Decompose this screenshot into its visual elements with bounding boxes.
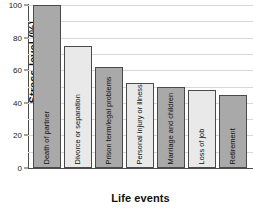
y-axis-ticks: 020406080100 [0, 0, 28, 175]
bar-category-label: Prison term/legal problems [105, 76, 112, 164]
bar[interactable]: Prison term/legal problems [95, 67, 123, 168]
bar[interactable]: Retirement [219, 95, 247, 168]
x-axis-line [28, 168, 253, 169]
bar-category-label: Retirement [230, 128, 237, 164]
y-tick-label: 60 [13, 66, 22, 75]
x-axis-title: Life events [28, 192, 253, 204]
y-tick-label: 20 [13, 131, 22, 140]
bar-category-label: Marriage and children [167, 93, 174, 164]
bar[interactable]: Marriage and children [157, 87, 185, 169]
bar[interactable]: Divorce or separation [64, 46, 92, 168]
y-tick-label: 80 [13, 33, 22, 42]
y-tick-label: 0 [18, 164, 22, 173]
bar-category-label: Divorce or separation [74, 94, 81, 164]
y-tick-label: 40 [13, 98, 22, 107]
stress-level-bar-chart: Stress level (%) 020406080100 Death of p… [0, 0, 253, 210]
bar-series: Death of partnerDivorce or separationPri… [31, 5, 249, 168]
bar[interactable]: Death of partner [33, 5, 61, 168]
bar[interactable]: Personal injury or illness [126, 83, 154, 168]
bar[interactable]: Loss of job [188, 90, 216, 168]
bar-category-label: Death of partner [43, 111, 50, 164]
bar-category-label: Personal injury or illness [136, 84, 143, 164]
plot-area: Death of partnerDivorce or separationPri… [28, 5, 253, 168]
y-tick-label: 100 [9, 1, 22, 10]
bar-category-label: Loss of job [199, 128, 206, 164]
